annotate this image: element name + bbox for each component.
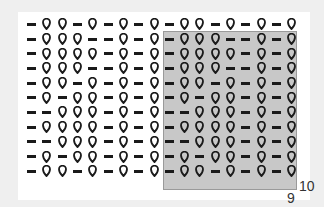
yarn-over-symbol-icon: [211, 136, 220, 148]
purl-symbol-icon: [134, 67, 143, 70]
stitch-cell: [55, 61, 70, 76]
purl-symbol-icon: [27, 126, 36, 129]
purl-symbol-icon: [272, 140, 281, 143]
yarn-over-symbol-icon: [287, 48, 296, 60]
stitch-cell: [85, 135, 100, 150]
purl-symbol-icon: [165, 38, 174, 41]
stitch-cell: [162, 32, 177, 47]
stitch-cell: [177, 90, 192, 105]
yarn-over-symbol-icon: [287, 92, 296, 104]
yarn-over-symbol-icon: [195, 165, 204, 177]
yarn-over-symbol-icon: [195, 136, 204, 148]
purl-symbol-icon: [241, 82, 250, 85]
yarn-over-symbol-icon: [58, 121, 67, 133]
stitch-cell: [55, 17, 70, 32]
purl-symbol-icon: [88, 67, 97, 70]
yarn-over-symbol-icon: [150, 92, 159, 104]
purl-symbol-icon: [241, 140, 250, 143]
yarn-over-symbol-icon: [257, 106, 266, 118]
stitch-cell: [238, 90, 253, 105]
stitch-count-label: 9: [287, 190, 295, 206]
yarn-over-symbol-icon: [287, 106, 296, 118]
stitch-cell: [208, 90, 223, 105]
yarn-over-symbol-icon: [287, 77, 296, 89]
yarn-over-symbol-icon: [119, 92, 128, 104]
yarn-over-symbol-icon: [226, 92, 235, 104]
purl-symbol-icon: [104, 111, 113, 114]
purl-symbol-icon: [58, 96, 67, 99]
purl-symbol-icon: [165, 170, 174, 173]
purl-symbol-icon: [165, 140, 174, 143]
stitch-cell: [162, 164, 177, 179]
yarn-over-symbol-icon: [150, 33, 159, 45]
yarn-over-symbol-icon: [58, 33, 67, 45]
stitch-cell: [116, 164, 131, 179]
purl-symbol-icon: [241, 155, 250, 158]
yarn-over-symbol-icon: [73, 121, 82, 133]
purl-symbol-icon: [27, 170, 36, 173]
purl-symbol-icon: [180, 140, 189, 143]
yarn-over-symbol-icon: [180, 92, 189, 104]
stitch-cell: [223, 135, 238, 150]
stitch-cell: [131, 61, 146, 76]
stitch-cell: [223, 17, 238, 32]
yarn-over-symbol-icon: [211, 92, 220, 104]
purl-symbol-icon: [241, 38, 250, 41]
stitch-cell: [269, 149, 284, 164]
purl-symbol-icon: [211, 23, 220, 26]
yarn-over-symbol-icon: [58, 77, 67, 89]
purl-symbol-icon: [104, 96, 113, 99]
stitch-chart-grid: [24, 17, 299, 179]
yarn-over-symbol-icon: [88, 136, 97, 148]
yarn-over-symbol-icon: [195, 62, 204, 74]
stitch-cell: [162, 120, 177, 135]
yarn-over-symbol-icon: [42, 121, 51, 133]
stitch-cell: [238, 46, 253, 61]
stitch-cell: [24, 164, 39, 179]
yarn-over-symbol-icon: [180, 121, 189, 133]
stitch-cell: [177, 149, 192, 164]
purl-symbol-icon: [27, 67, 36, 70]
yarn-over-symbol-icon: [58, 48, 67, 60]
stitch-cell: [253, 105, 268, 120]
purl-symbol-icon: [272, 52, 281, 55]
purl-symbol-icon: [27, 111, 36, 114]
purl-symbol-icon: [27, 140, 36, 143]
yarn-over-symbol-icon: [150, 151, 159, 163]
purl-symbol-icon: [104, 126, 113, 129]
stitch-cell: [24, 76, 39, 91]
yarn-over-symbol-icon: [195, 77, 204, 89]
stitch-cell: [70, 135, 85, 150]
stitch-cell: [116, 149, 131, 164]
purl-symbol-icon: [134, 155, 143, 158]
yarn-over-symbol-icon: [58, 136, 67, 148]
stitch-cell: [284, 164, 299, 179]
yarn-over-symbol-icon: [211, 62, 220, 74]
stitch-cell: [39, 46, 54, 61]
purl-symbol-icon: [241, 96, 250, 99]
yarn-over-symbol-icon: [211, 151, 220, 163]
stitch-cell: [24, 46, 39, 61]
stitch-cell: [284, 32, 299, 47]
yarn-over-symbol-icon: [226, 151, 235, 163]
purl-symbol-icon: [241, 111, 250, 114]
yarn-over-symbol-icon: [42, 62, 51, 74]
stitch-cell: [131, 17, 146, 32]
stitch-cell: [192, 149, 207, 164]
stitch-cell: [269, 120, 284, 135]
yarn-over-symbol-icon: [119, 136, 128, 148]
yarn-over-symbol-icon: [257, 136, 266, 148]
purl-symbol-icon: [165, 155, 174, 158]
stitch-cell: [100, 90, 115, 105]
stitch-cell: [162, 90, 177, 105]
stitch-cell: [208, 32, 223, 47]
stitch-cell: [131, 149, 146, 164]
purl-symbol-icon: [165, 111, 174, 114]
yarn-over-symbol-icon: [287, 165, 296, 177]
stitch-cell: [146, 135, 161, 150]
stitch-cell: [131, 164, 146, 179]
stitch-cell: [177, 32, 192, 47]
yarn-over-symbol-icon: [119, 121, 128, 133]
purl-symbol-icon: [104, 52, 113, 55]
yarn-over-symbol-icon: [119, 62, 128, 74]
